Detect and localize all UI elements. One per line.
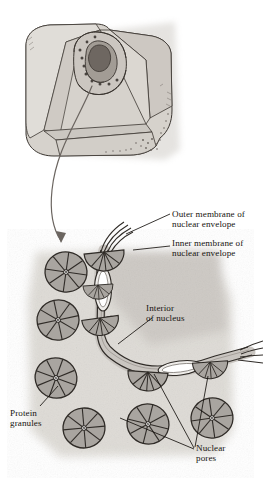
leader-pore-2 [120, 418, 194, 449]
label-inner-membrane: Inner membrane of nuclear envelope [172, 238, 243, 259]
leader-inner-membrane [133, 246, 170, 250]
label-outer-membrane: Outer membrane of nuclear envelope [172, 209, 245, 230]
label-protein-granules: Protein granules [10, 408, 42, 429]
leader-outer-membrane [126, 214, 170, 234]
label-nuclear-pores: Nuclear pores [196, 443, 225, 464]
nuclear-envelope-figure: Outer membrane of nuclear envelope Inner… [0, 0, 263, 491]
leader-pore-1 [154, 374, 194, 448]
leader-protein-granules [40, 386, 58, 406]
leader-pore-3 [195, 376, 208, 447]
label-interior-of-nucleus: Interior of nucleus [146, 303, 185, 324]
